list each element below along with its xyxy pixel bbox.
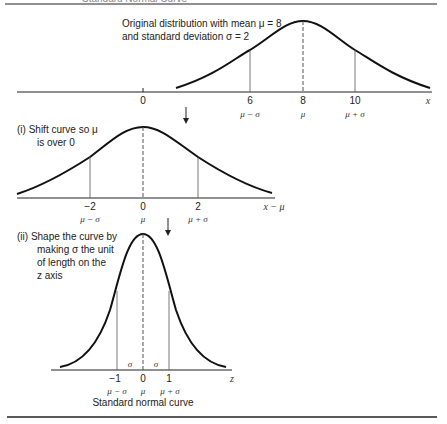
caption-line4: z axis <box>37 270 63 281</box>
greek-label: μ − σ <box>106 386 127 396</box>
panel-original: Original distribution with mean μ = 8 an… <box>17 18 432 119</box>
tick-label: 0 <box>140 95 146 106</box>
greek-label: μ + σ <box>344 109 365 119</box>
sigma-mark: σ <box>128 359 133 369</box>
caption-line3: of length on the <box>37 257 106 268</box>
tick-label: 1 <box>166 373 172 384</box>
down-arrow-icon <box>165 218 171 236</box>
axis-name: x <box>425 95 431 106</box>
normal-curve-diagram: Standard Normal Curve Original distribut… <box>0 0 447 424</box>
axis-name: z <box>229 373 234 384</box>
caption-line2: making σ the unit <box>37 244 114 255</box>
panel-shift: (i) Shift curve so μ is over 0 −2 0 2 x … <box>17 124 285 224</box>
caption-line2: and standard deviation σ = 2 <box>122 31 250 42</box>
caption-line1: Original distribution with mean μ = 8 <box>122 18 282 29</box>
greek-label: μ + σ <box>159 386 180 396</box>
greek-label: μ − σ <box>79 214 100 224</box>
tick-label: 10 <box>349 95 361 106</box>
greek-label: μ − σ <box>239 109 260 119</box>
greek-label: μ + σ <box>187 214 208 224</box>
greek-label: μ <box>300 109 306 119</box>
tick-label: 0 <box>140 373 146 384</box>
tick-label: 2 <box>195 201 201 212</box>
footer-caption: Standard normal curve <box>92 397 194 408</box>
greek-label: μ <box>140 386 146 396</box>
caption-line2: is over 0 <box>37 137 75 148</box>
tick-label: −2 <box>84 201 96 212</box>
caption-line1: (i) Shift curve so μ <box>17 124 98 135</box>
down-arrow-icon <box>183 107 189 124</box>
tick-label: 0 <box>140 201 146 212</box>
tick-label: 6 <box>247 95 253 106</box>
caption-line1: (ii) Shape the curve by <box>17 231 117 242</box>
sigma-mark: σ <box>154 359 159 369</box>
panel-standard: (ii) Shape the curve by making σ the uni… <box>17 231 234 408</box>
axis-name: x − μ <box>262 201 284 212</box>
tick-label: −1 <box>109 373 121 384</box>
greek-label: μ <box>140 214 146 224</box>
tick-label: 8 <box>300 95 306 106</box>
